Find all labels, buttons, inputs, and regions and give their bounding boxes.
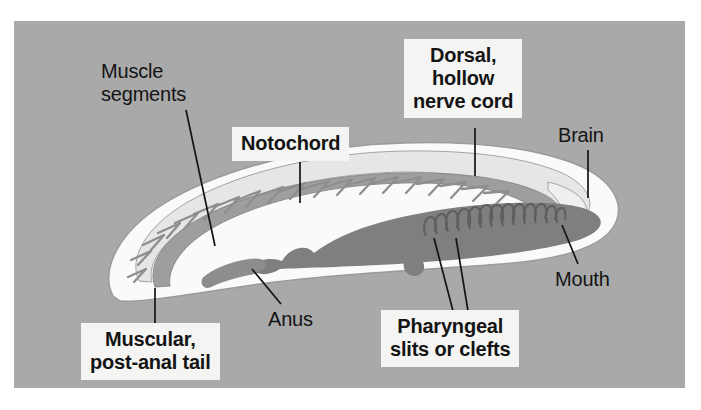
figure-page: Muscle segments Notochord Dorsal, hollow… [0, 0, 701, 410]
label-muscular-post-anal-tail: Muscular, post-anal tail [81, 323, 220, 380]
label-anus: Anus [268, 308, 313, 331]
label-muscle-segments: Muscle segments [101, 60, 186, 106]
label-dorsal-hollow-nerve-cord: Dorsal, hollow nerve cord [404, 39, 522, 118]
label-brain: Brain [558, 124, 604, 147]
label-mouth: Mouth [555, 268, 610, 291]
gut-diverticulum [404, 262, 425, 276]
label-pharyngeal-slits-or-clefts: Pharyngeal slits or clefts [381, 310, 519, 367]
label-notochord: Notochord [232, 127, 349, 161]
